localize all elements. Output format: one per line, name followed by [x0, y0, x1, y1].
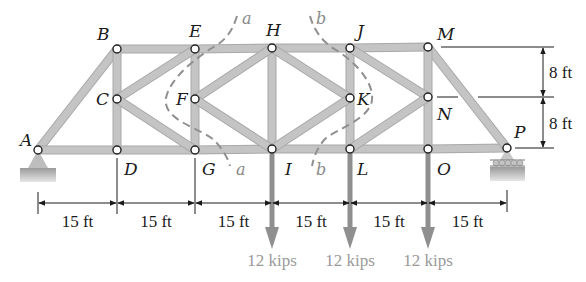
joint-label-G: G [202, 159, 216, 179]
joint-label-H: H [265, 20, 282, 40]
joint-label-N: N [436, 104, 453, 124]
joint-J [346, 44, 354, 52]
load-arrows: 12 kips12 kips12 kips [247, 149, 453, 270]
joint-label-L: L [356, 159, 368, 179]
load-label: 12 kips [403, 251, 453, 270]
joint-H [268, 44, 276, 52]
joint-label-B: B [96, 24, 110, 44]
height-label: 8 ft [549, 114, 572, 133]
pin-support-A [20, 150, 56, 182]
truss-diagram: 12 kips12 kips12 kips aabb ABCDEFGHIJKLM… [0, 0, 586, 282]
roller-support-P [490, 148, 525, 181]
svg-text:b: b [316, 9, 326, 28]
height-label: 8 ft [549, 63, 572, 82]
joint-label-D: D [123, 159, 138, 179]
joint-A [34, 146, 42, 154]
joint-label-F: F [175, 89, 189, 109]
joint-K [346, 94, 354, 102]
joint-L [346, 145, 354, 153]
joint-label-O: O [437, 159, 451, 179]
joint-label-E: E [188, 21, 202, 41]
joint-label-P: P [513, 122, 526, 142]
joint-C [113, 95, 121, 103]
joint-label-A: A [18, 130, 32, 150]
joint-E [191, 45, 199, 53]
span-label: 15 ft [373, 212, 405, 231]
span-label: 15 ft [295, 212, 327, 231]
span-label: 15 ft [218, 212, 250, 231]
member-JM [350, 47, 428, 48]
svg-text:b: b [316, 160, 326, 179]
load-label: 12 kips [325, 251, 375, 270]
vertical-dimensions: 8 ft8 ft [437, 47, 572, 148]
joint-G [191, 146, 199, 154]
joint-label-M: M [436, 24, 455, 44]
joint-label-C: C [96, 89, 109, 109]
svg-text:a: a [242, 9, 252, 28]
span-label: 15 ft [140, 212, 172, 231]
joint-label-J: J [354, 21, 365, 41]
member-HK [272, 48, 350, 98]
joint-D [113, 146, 121, 154]
member-FI [195, 99, 272, 149]
member-FH [195, 48, 272, 99]
joint-label-K: K [356, 89, 371, 109]
member-EH [195, 48, 272, 49]
member-OP [428, 148, 507, 149]
joint-F [191, 95, 199, 103]
member-GI [195, 149, 272, 150]
joint-O [424, 145, 432, 153]
joint-label-I: I [284, 159, 292, 179]
joint-M [424, 43, 432, 51]
span-label: 15 ft [62, 212, 94, 231]
svg-text:a: a [236, 160, 246, 179]
joint-B [113, 45, 121, 53]
load-label: 12 kips [247, 251, 297, 270]
joint-I [268, 145, 276, 153]
joint-P [503, 144, 511, 152]
member-IK [272, 98, 350, 149]
span-label: 15 ft [452, 212, 484, 231]
joint-N [424, 93, 432, 101]
